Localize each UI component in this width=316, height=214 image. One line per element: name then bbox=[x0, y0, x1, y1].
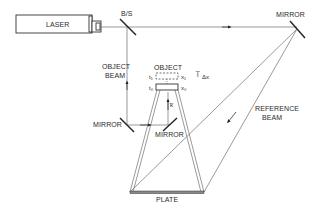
object-position-0 bbox=[156, 84, 178, 90]
reference-beam-label-line2: BEAM bbox=[262, 114, 282, 121]
wave-vector-label: k̅ bbox=[170, 102, 174, 108]
object-label: OBJECT bbox=[154, 64, 183, 71]
object-ray-left-2 bbox=[133, 90, 160, 192]
mirror-center-label: MIRROR bbox=[155, 131, 184, 138]
plate-label: PLATE bbox=[156, 196, 178, 203]
reference-beam-label-line1: REFERENCE bbox=[255, 105, 299, 112]
mirror-center: MIRROR bbox=[155, 118, 184, 138]
object-x0-label: x₀ bbox=[181, 85, 187, 91]
object-t1-label: t₁ bbox=[149, 74, 153, 80]
object: OBJECT t₁ t₀ x₁ x₀ i̅ Δx k̅ bbox=[149, 64, 209, 108]
displacement-subscript-label: Δx bbox=[202, 74, 209, 80]
mirror-left-label: MIRROR bbox=[93, 121, 122, 128]
beam-splitter: B/S bbox=[120, 10, 136, 35]
object-beam-label-line2: BEAM bbox=[105, 72, 125, 79]
laser: LASER bbox=[16, 15, 101, 33]
object-ray-right-1 bbox=[175, 90, 201, 192]
holography-diagram: LASER B/S MIRROR OBJECT BEAM MIRROR MIRR… bbox=[0, 0, 316, 214]
object-x1-label: x₁ bbox=[181, 74, 186, 80]
laser-aperture bbox=[96, 23, 100, 30]
object-position-1 bbox=[156, 73, 178, 79]
reference-beam-arrow-icon bbox=[228, 112, 236, 122]
plate-element bbox=[130, 191, 204, 194]
object-beam-label-line1: OBJECT bbox=[102, 63, 131, 70]
mirror-top-right: MIRROR bbox=[276, 11, 305, 38]
beam-splitter-label: B/S bbox=[121, 10, 133, 17]
object-t0-label: t₀ bbox=[149, 85, 154, 91]
plate: PLATE bbox=[130, 191, 204, 203]
object-to-plate-rays bbox=[130, 90, 204, 192]
mirror-center-element bbox=[163, 118, 177, 131]
reference-beam: REFERENCE BEAM bbox=[130, 29, 299, 192]
mirror-top-right-element bbox=[290, 21, 305, 38]
laser-label: LASER bbox=[46, 21, 69, 28]
displacement-vector-label: i̅ bbox=[195, 71, 201, 78]
mirror-top-right-label: MIRROR bbox=[276, 11, 305, 18]
object-ray-left-1 bbox=[130, 90, 157, 192]
